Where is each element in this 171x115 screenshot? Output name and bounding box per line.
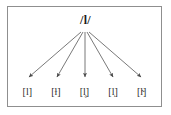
arrow-4 bbox=[87, 32, 113, 77]
arrow-2 bbox=[57, 32, 83, 77]
allophone-voiceless-l: [l̥] bbox=[70, 85, 99, 99]
arrow-5 bbox=[89, 32, 141, 77]
allophone-syllabic-l: [l̩] bbox=[99, 85, 128, 99]
allophone-velarized-l: [l̴] bbox=[127, 85, 156, 99]
allophone-dark-l: [ɫ] bbox=[42, 85, 71, 99]
diagram-canvas: /l/ [l] [ɫ] [l̥] [l̩] [l̴] bbox=[0, 0, 171, 115]
arrow-1 bbox=[29, 32, 81, 77]
allophone-row: [l] [ɫ] [l̥] [l̩] [l̴] bbox=[7, 84, 162, 100]
allophone-clear-l: [l] bbox=[13, 85, 42, 99]
